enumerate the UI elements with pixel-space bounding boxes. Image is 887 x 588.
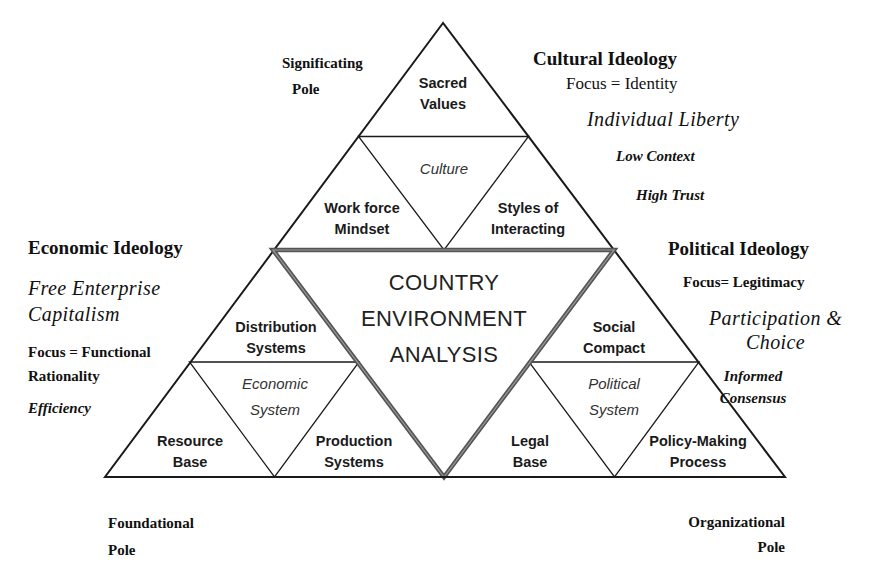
political-ideology-trait: Informed Consensus	[720, 365, 787, 409]
cell-text: Legal	[511, 431, 549, 452]
cell-text: Base	[157, 452, 223, 473]
cell-policy-making-process: Policy-Making Process	[649, 431, 747, 473]
system-text: System	[588, 397, 640, 423]
economic-ideology-value-line: Capitalism	[28, 301, 160, 327]
center-title: COUNTRY ENVIRONMENT ANALYSIS	[361, 265, 527, 373]
cell-text: Policy-Making	[649, 431, 747, 452]
pole-foundational: Foundational Pole	[108, 510, 194, 564]
political-ideology-value-line: Participation &	[709, 306, 842, 330]
cell-text: Systems	[235, 338, 316, 359]
cell-production-systems: Production Systems	[316, 431, 393, 473]
economic-ideology-value: Free Enterprise Capitalism	[28, 275, 160, 327]
cultural-ideology-value: Individual Liberty	[587, 108, 739, 131]
cultural-ideology-trait-1: Low Context	[616, 148, 695, 165]
system-label-political: Political System	[588, 371, 640, 423]
economic-ideology-focus-line: Rationality	[28, 364, 151, 388]
cell-resource-base: Resource Base	[157, 431, 223, 473]
political-ideology-value-line: Choice	[709, 330, 842, 354]
cell-text: Values	[419, 94, 467, 115]
cell-text: Production	[316, 431, 393, 452]
system-label-economic: Economic System	[242, 371, 308, 423]
political-ideology-value: Participation & Choice	[709, 306, 842, 354]
cell-text: Work force	[324, 198, 399, 219]
cell-text: Distribution	[235, 317, 316, 338]
political-ideology-heading: Political Ideology	[668, 238, 809, 260]
system-text: Culture	[420, 160, 468, 177]
cell-text: Systems	[316, 452, 393, 473]
cultural-ideology-trait-2: High Trust	[636, 187, 704, 204]
economic-ideology-trait: Efficiency	[28, 400, 91, 417]
cell-text: Mindset	[324, 219, 399, 240]
cell-text: Sacred	[419, 73, 467, 94]
economic-ideology-focus-line: Focus = Functional	[28, 340, 151, 364]
political-ideology-trait-line: Consensus	[720, 387, 787, 409]
cell-work-force-mindset: Work force Mindset	[324, 198, 399, 240]
pole-text: Pole	[660, 535, 785, 560]
political-ideology-trait-line: Informed	[720, 365, 787, 387]
pole-text: Foundational	[108, 510, 194, 537]
cell-legal-base: Legal Base	[511, 431, 549, 473]
pole-text: Pole	[282, 76, 363, 102]
cultural-ideology-heading: Cultural Ideology	[533, 48, 677, 70]
economic-ideology-heading: Economic Ideology	[28, 237, 183, 259]
economic-ideology-focus: Focus = Functional Rationality	[28, 340, 151, 388]
cell-text: Base	[511, 452, 549, 473]
center-title-line-3: ANALYSIS	[361, 337, 527, 373]
pole-text: Significating	[282, 50, 363, 76]
system-text: Political	[588, 371, 640, 397]
system-text: System	[242, 397, 308, 423]
pole-text: Pole	[108, 537, 194, 564]
cell-text: Resource	[157, 431, 223, 452]
cell-text: Compact	[583, 338, 645, 359]
cell-text: Interacting	[491, 219, 565, 240]
center-title-line-1: COUNTRY	[361, 265, 527, 301]
cell-text: Process	[649, 452, 747, 473]
cell-social-compact: Social Compact	[583, 317, 645, 359]
pole-text: Organizational	[660, 510, 785, 535]
system-text: Economic	[242, 371, 308, 397]
economic-ideology-value-line: Free Enterprise	[28, 275, 160, 301]
system-label-culture: Culture	[420, 156, 468, 182]
center-title-line-2: ENVIRONMENT	[361, 301, 527, 337]
cell-text: Styles of	[491, 198, 565, 219]
pole-significating: Significating Pole	[282, 50, 363, 102]
cultural-ideology-focus: Focus = Identity	[566, 74, 678, 94]
cell-distribution-systems: Distribution Systems	[235, 317, 316, 359]
cell-sacred-values: Sacred Values	[419, 73, 467, 115]
cell-styles-of-interacting: Styles of Interacting	[491, 198, 565, 240]
political-ideology-focus: Focus= Legitimacy	[683, 274, 804, 291]
cell-text: Social	[583, 317, 645, 338]
pole-organizational: Organizational Pole	[660, 510, 785, 560]
